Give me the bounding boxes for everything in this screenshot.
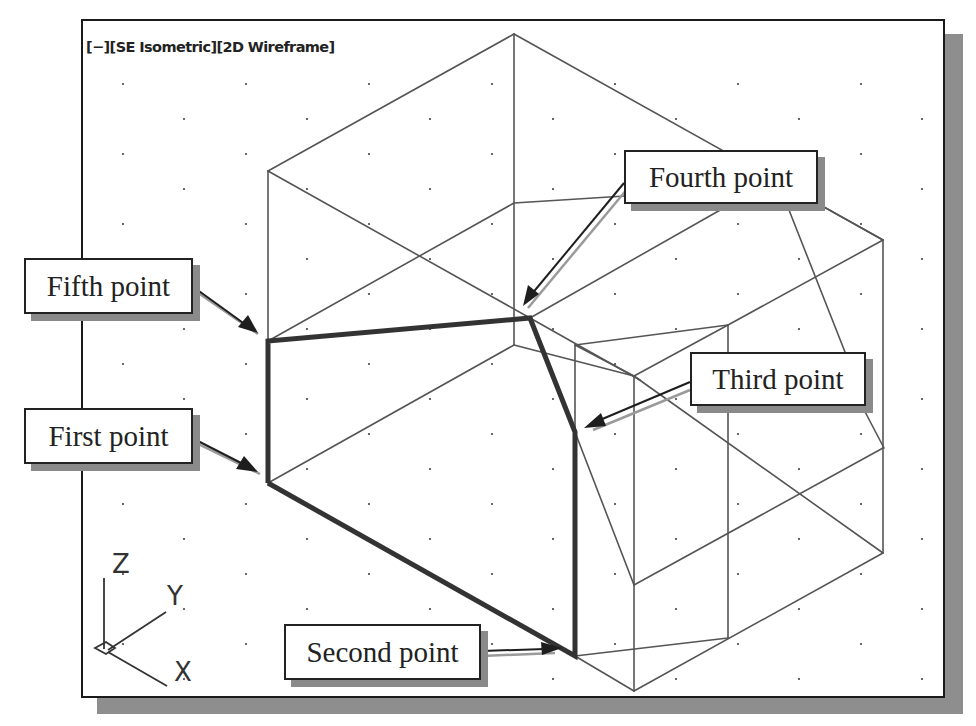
callout-fifth-point: Fifth point	[24, 258, 193, 314]
ucs-z-label: Z	[112, 549, 130, 579]
ucs-x-label: X	[174, 657, 192, 687]
callout-fourth-point: Fourth point	[624, 150, 818, 204]
ucs-y-label: Y	[166, 581, 183, 611]
callout-first-point: First point	[24, 408, 193, 464]
callout-second-point: Second point	[284, 624, 481, 680]
ucs-icon	[95, 578, 167, 686]
callout-third-point: Third point	[690, 352, 866, 406]
closed-polyline[interactable]	[268, 318, 575, 656]
